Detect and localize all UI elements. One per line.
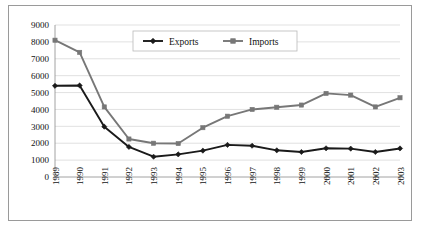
data-point-marker [53, 38, 57, 42]
y-axis-tick-label: 9000 [31, 20, 50, 30]
x-axis-tick-label: 1996 [223, 167, 233, 186]
data-point-marker [397, 146, 402, 151]
y-axis-tick-label: 7000 [31, 54, 50, 64]
x-axis-tick-label: 1997 [248, 167, 258, 186]
data-point-marker [151, 141, 155, 145]
line-chart: 0100020003000400050006000700080009000198… [0, 0, 422, 228]
data-point-marker [275, 105, 279, 109]
data-point-marker [299, 103, 303, 107]
x-axis-tick-label: 1992 [124, 167, 134, 185]
x-axis-tick-label: 1995 [198, 167, 208, 186]
data-point-marker [176, 152, 181, 157]
data-point-marker [324, 91, 328, 95]
chart-canvas: 0100020003000400050006000700080009000198… [0, 0, 422, 228]
data-point-marker [78, 50, 82, 54]
y-axis-tick-label: 0 [45, 172, 50, 182]
data-point-marker [373, 149, 378, 154]
x-axis-tick-label: 2000 [322, 167, 332, 186]
x-axis-tick-label: 2003 [396, 167, 406, 186]
legend-label-exports: Exports [169, 37, 199, 47]
data-point-marker [225, 114, 229, 118]
data-point-marker [201, 126, 205, 130]
data-point-marker [274, 148, 279, 153]
data-point-marker [348, 146, 353, 151]
legend-label-imports: Imports [249, 37, 279, 47]
x-axis-tick-label: 1999 [297, 167, 307, 186]
x-axis-tick-label: 1991 [100, 167, 110, 185]
data-point-marker [349, 93, 353, 97]
data-point-marker [398, 96, 402, 100]
data-point-marker [102, 105, 106, 109]
x-axis-tick-label: 2001 [346, 167, 356, 185]
y-axis-tick-label: 1000 [31, 155, 50, 165]
x-axis-tick-label: 1998 [272, 167, 282, 186]
y-axis-tick-label: 6000 [31, 71, 50, 81]
data-point-marker [176, 141, 180, 145]
x-axis-tick-label: 1993 [149, 167, 159, 186]
data-point-marker [200, 148, 205, 153]
data-point-marker [250, 107, 254, 111]
data-point-marker [373, 105, 377, 109]
y-axis-tick-label: 3000 [31, 122, 50, 132]
x-axis-tick-label: 1994 [174, 167, 184, 186]
y-axis-tick-label: 4000 [31, 105, 50, 115]
data-point-marker [323, 146, 328, 151]
x-axis-tick-label: 1989 [51, 167, 61, 186]
x-axis-tick-label: 2002 [371, 167, 381, 185]
data-point-marker [127, 137, 131, 141]
data-point-marker [151, 154, 156, 159]
x-axis-tick-label: 1990 [75, 167, 85, 186]
y-axis-tick-label: 8000 [31, 37, 50, 47]
data-point-marker [299, 149, 304, 154]
data-point-marker [250, 143, 255, 148]
legend-marker-imports [231, 39, 236, 44]
y-axis-tick-label: 5000 [31, 88, 50, 98]
y-axis-tick-label: 2000 [31, 138, 50, 148]
data-point-marker [52, 83, 57, 88]
